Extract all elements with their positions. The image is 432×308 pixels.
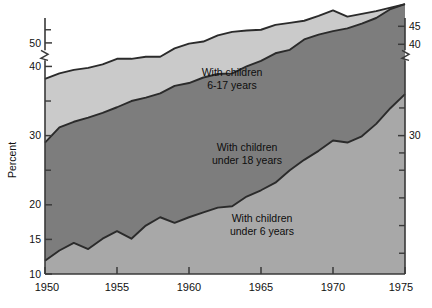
band-annotation-under-6-line2: under 6 years [230,225,294,237]
y-tick-label-30: 30 [29,129,41,141]
band-annotation-under-6: With children under 6 years [230,212,294,237]
y-tick-label-15: 15 [29,233,41,245]
y-tick-label-20: 20 [29,198,41,210]
x-tick-label-1960: 1960 [177,281,201,293]
band-annotation-under-6-line1: With children [232,212,293,224]
x-tick-label-1970: 1970 [321,281,345,293]
y-right-tick-label-40: 40 [409,38,421,50]
x-tick-label-1975: 1975 [389,281,413,293]
y-tick-label-40: 40 [29,60,41,72]
y-tick-label-10: 10 [29,268,41,280]
stacked-area-chart: 50 40 30 20 15 10 45 40 30 1950 1955 196… [0,0,432,308]
y-tick-label-50: 50 [29,37,41,49]
x-tick-label-1955: 1955 [105,281,129,293]
chart-figure: 50 40 30 20 15 10 45 40 30 1950 1955 196… [0,0,432,308]
y-axis-title: Percent [6,142,18,178]
band-annotation-6-17-line1: With children [202,66,263,78]
band-annotation-6-17-line2: 6-17 years [207,79,257,91]
y-right-tick-label-30: 30 [409,129,421,141]
x-tick-label-1950: 1950 [35,281,59,293]
y-right-tick-label-45: 45 [409,20,421,32]
x-tick-label-1965: 1965 [249,281,273,293]
band-annotation-under-18-line2: under 18 years [212,154,282,166]
band-annotation-under-18-line1: With children [217,141,278,153]
band-annotation-6-17: With children 6-17 years [202,66,263,91]
band-annotation-under-18: With children under 18 years [212,141,282,166]
